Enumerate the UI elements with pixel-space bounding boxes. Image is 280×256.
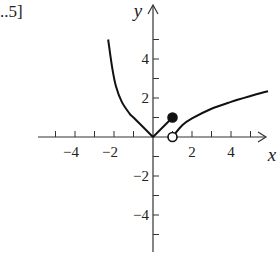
x-tick-label: −2	[102, 144, 118, 160]
axes	[38, 5, 266, 252]
y-tick-label: −4	[133, 207, 149, 223]
y-tick-label: 2	[142, 90, 150, 106]
function-graph: −4−22442−2−4xy	[0, 0, 280, 256]
y-tick-label: −2	[133, 168, 149, 184]
right-branch	[173, 91, 269, 137]
x-tick-label: 2	[188, 144, 196, 160]
y-tick-label: 4	[142, 51, 150, 67]
y-axis-label: y	[132, 0, 143, 21]
tick-labels: −4−22442−2−4xy	[63, 0, 277, 223]
closed-dot-icon	[168, 113, 177, 122]
curves	[108, 40, 268, 138]
open-circle-icon	[168, 133, 177, 142]
x-tick-label: −4	[63, 144, 79, 160]
point-markers	[168, 113, 177, 142]
x-tick-label: 4	[227, 144, 235, 160]
x-axis-label: x	[267, 144, 277, 165]
